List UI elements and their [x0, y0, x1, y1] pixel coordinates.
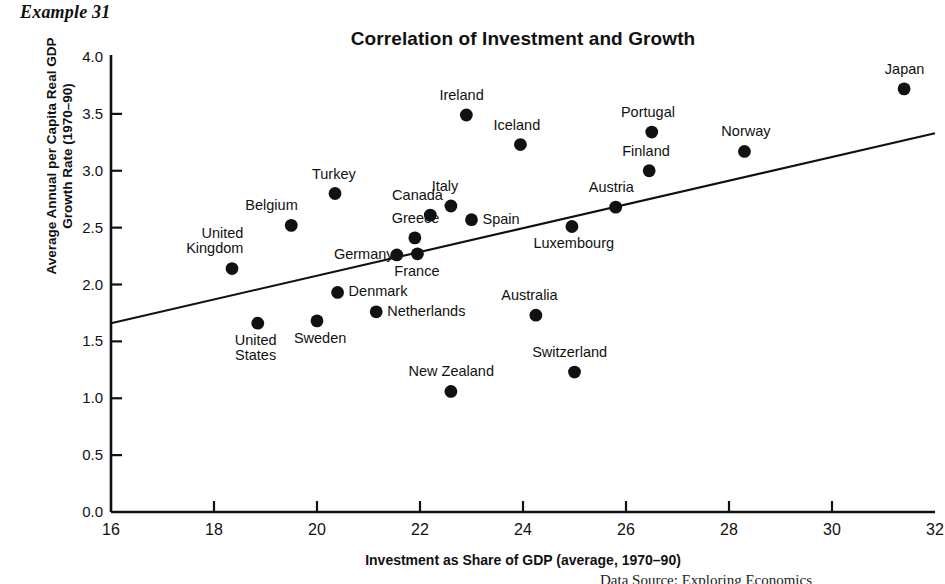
y-tick-label: 2.5 [59, 219, 103, 236]
y-tick-label: 0.5 [59, 446, 103, 463]
data-point-marker [445, 200, 458, 213]
data-point-marker [609, 201, 622, 214]
data-point-marker [465, 213, 478, 226]
data-point-label: Japan [885, 62, 925, 77]
y-tick-label: 1.5 [59, 332, 103, 349]
x-tick-label: 28 [706, 521, 752, 539]
data-point-marker [411, 247, 424, 260]
data-point-marker [645, 126, 658, 139]
data-point-label: Finland [622, 144, 670, 159]
data-point-label: Portugal [621, 105, 675, 120]
data-point-marker [738, 145, 751, 158]
data-point-marker [514, 138, 527, 151]
data-point-marker [226, 262, 239, 275]
data-point-label: Italy [432, 179, 459, 194]
data-point-marker [408, 231, 421, 244]
data-point-label: United States [235, 333, 277, 363]
y-tick-label: 3.5 [59, 105, 103, 122]
data-point-marker [329, 187, 342, 200]
x-tick-label: 22 [397, 521, 443, 539]
data-point-label: Sweden [294, 331, 346, 346]
data-point-marker [285, 219, 298, 232]
data-point-marker [568, 366, 581, 379]
x-tick-label: 24 [500, 521, 546, 539]
data-point-label: Netherlands [387, 304, 465, 319]
data-point-marker [643, 164, 656, 177]
data-point-label: Australia [501, 288, 557, 303]
x-tick-label: 18 [191, 521, 237, 539]
data-point-label: Denmark [349, 284, 408, 299]
y-tick-label: 1.0 [59, 389, 103, 406]
data-point-label: Austria [589, 180, 634, 195]
data-point-label: Turkey [312, 167, 356, 182]
data-point-marker [898, 82, 911, 95]
data-point-label: New Zealand [409, 364, 494, 379]
data-point-label: Germany [334, 247, 394, 262]
data-point-marker [251, 317, 264, 330]
data-point-marker [311, 315, 324, 328]
data-point-label: Luxembourg [533, 236, 614, 251]
data-point-label: France [394, 264, 439, 279]
data-point-marker [529, 309, 542, 322]
y-tick-label: 2.0 [59, 276, 103, 293]
data-point-label: Greece [392, 211, 440, 226]
y-tick-label: 3.0 [59, 162, 103, 179]
data-point-label: Belgium [245, 198, 297, 213]
data-point-marker [566, 220, 579, 233]
x-tick-label: 16 [88, 521, 134, 539]
data-point-label: Iceland [493, 118, 540, 133]
y-tick-label: 0.0 [59, 503, 103, 520]
data-point-marker [370, 305, 383, 318]
footer-partial-text: Data Source: Exploring Economics [600, 572, 945, 584]
x-tick-label: 26 [603, 521, 649, 539]
data-point-label: United Kingdom [186, 226, 243, 256]
x-tick-label: 20 [294, 521, 340, 539]
data-point-marker [331, 286, 344, 299]
x-tick-label: 30 [809, 521, 855, 539]
y-tick-label: 4.0 [59, 48, 103, 65]
data-point-marker [445, 385, 458, 398]
data-point-label: Spain [483, 212, 520, 227]
x-tick-label: 32 [912, 521, 945, 539]
data-point-label: Ireland [439, 88, 483, 103]
data-point-marker [460, 109, 473, 122]
data-point-label: Switzerland [532, 345, 607, 360]
data-point-label: Norway [721, 124, 770, 139]
